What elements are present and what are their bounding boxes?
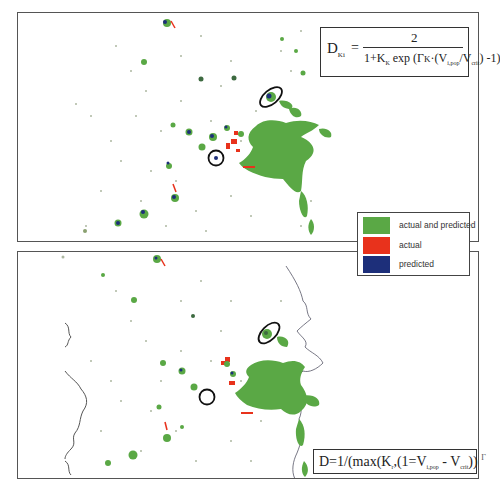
legend-item-predicted: predicted <box>363 255 434 273</box>
town-clusters <box>101 255 198 466</box>
legend-swatch-green <box>363 217 390 234</box>
legend-item-actual: actual <box>363 236 422 254</box>
formula-numerator: 2 <box>411 30 418 46</box>
legend-label: actual <box>399 240 422 250</box>
urban-map-bottom <box>18 252 479 479</box>
formula-equals: = <box>351 40 359 56</box>
formula-box-bottom: D=1/(max(Kr,(1=Vi,pop - Vcrit)) Γ <box>313 449 477 474</box>
legend-swatch-blue <box>363 256 390 273</box>
formula-text: D=1/(max(Kr,(1=Vi,pop - Vcrit)) Γ <box>319 453 486 470</box>
legend: actual and predicted actual predicted <box>357 212 470 276</box>
formula-box-top: DKi = 2 1+KK exp (ΓK·(Vi,pop/Vcrit) -1) <box>320 27 469 77</box>
legend-label: predicted <box>399 259 434 269</box>
formula-lhs: DKi <box>327 40 345 59</box>
legend-label: actual and predicted <box>399 220 476 230</box>
legend-swatch-red <box>363 237 390 254</box>
main-urban-area <box>221 329 319 477</box>
legend-item-actual-and-predicted: actual and predicted <box>363 216 476 234</box>
marker-circle-bottom <box>200 390 215 405</box>
river-line <box>65 323 87 475</box>
formula-denominator: 1+KK exp (ΓK·(Vi,pop/Vcrit) -1) <box>364 51 500 66</box>
fraction-bar <box>363 47 463 48</box>
main-urban-area <box>224 92 331 235</box>
scatter-specks <box>62 256 283 463</box>
map-panel-bottom <box>17 251 479 479</box>
